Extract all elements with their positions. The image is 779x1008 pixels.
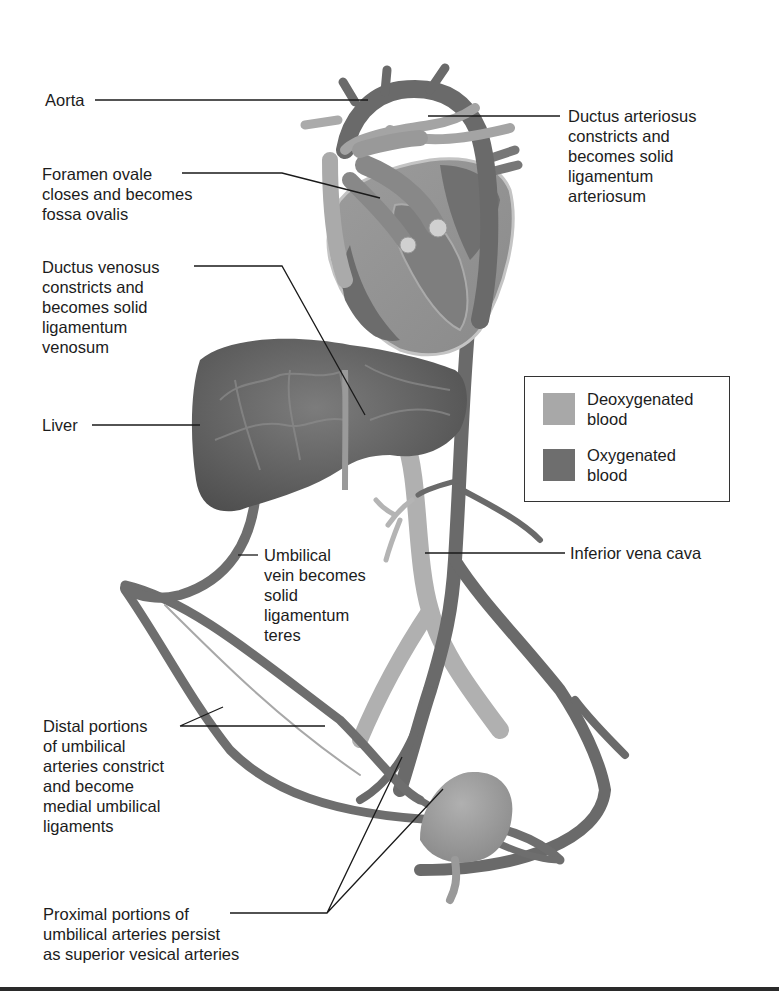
bottom-rule (0, 987, 779, 991)
label-inferior-vena-cava: Inferior vena cava (570, 543, 701, 563)
legend-swatch-deoxygenated (543, 393, 575, 425)
legend-swatch-oxygenated (543, 449, 575, 481)
label-foramen-ovale: Foramen ovale closes and becomes fossa o… (42, 164, 192, 224)
legend-label-oxygenated: Oxygenated blood (587, 445, 676, 485)
legend-item-deoxygenated: Deoxygenated blood (543, 389, 693, 429)
umbilical-vein-shape (125, 500, 255, 598)
legend-item-oxygenated: Oxygenated blood (543, 445, 676, 485)
label-proximal-umbilical-arteries: Proximal portions of umbilical arteries … (43, 904, 239, 964)
label-aorta: Aorta (45, 90, 84, 110)
legend-box: Deoxygenated blood Oxygenated blood (524, 376, 730, 502)
legend-label-deoxygenated: Deoxygenated blood (587, 389, 693, 429)
label-liver: Liver (42, 415, 78, 435)
label-ductus-venosus: Ductus venosus constricts and becomes so… (42, 257, 159, 357)
liver-shape (192, 339, 467, 511)
label-distal-umbilical-arteries: Distal portions of umbilical arteries co… (43, 716, 164, 836)
bladder-shape (420, 772, 512, 900)
label-umbilical-vein: Umbilical vein becomes solid ligamentum … (264, 545, 366, 645)
label-ductus-arteriosus: Ductus arteriosus constricts and becomes… (568, 106, 696, 206)
